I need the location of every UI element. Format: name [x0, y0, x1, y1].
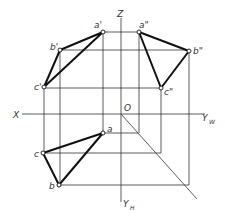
point-c [41, 151, 45, 155]
label-x-axis: X [12, 110, 20, 120]
label-origin: O [124, 103, 131, 113]
top-view-triangle [43, 133, 103, 185]
label-a-double-prime: a" [139, 20, 149, 30]
point-a-prime [101, 30, 105, 34]
point-c-double-prime [159, 86, 163, 90]
label-b-double-prime: b" [193, 46, 203, 56]
label-yh-axis: Y [123, 199, 130, 209]
label-c: c [34, 149, 39, 159]
miter-line [121, 114, 197, 199]
label-c-prime: c' [34, 82, 41, 92]
label-b: b [49, 181, 55, 191]
front-view-triangle [44, 32, 103, 87]
label-z-axis: Z [116, 9, 124, 19]
label-yw-sub: W [209, 118, 216, 125]
point-a-double-prime [137, 30, 141, 34]
side-view-triangle [139, 32, 189, 88]
point-b-prime [58, 48, 62, 52]
point-b-double-prime [187, 49, 191, 53]
label-c-double-prime: c" [164, 87, 173, 97]
point-a [101, 131, 105, 135]
point-b [57, 183, 61, 187]
label-yw-axis: Y [202, 113, 209, 123]
label-b-prime: b' [50, 42, 58, 52]
point-c-prime [42, 85, 46, 89]
label-yh-sub: H [130, 204, 135, 211]
label-a-prime: a' [94, 20, 102, 30]
projection-diagram: a' b' c' a" b" c" a b c X Z O Y W Y H [0, 0, 225, 220]
label-a: a [107, 124, 113, 134]
